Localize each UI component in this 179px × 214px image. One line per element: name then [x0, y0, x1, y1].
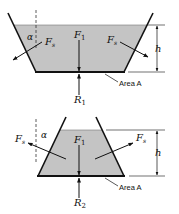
top-r1-label: R1: [73, 94, 86, 107]
top-alpha-label: α: [27, 32, 33, 42]
bottom-r2-label: R2: [73, 197, 86, 210]
bottom-area-label: Area A: [119, 183, 142, 192]
bottom-h-label: h: [155, 147, 161, 158]
bottom-fs-left-label: Fs: [14, 133, 25, 145]
hydrostatic-containers-diagram: α Fs F1 Fs h R1 Area A α Fs F1 Fs h R2 A…: [0, 0, 179, 214]
bottom-alpha-label: α: [41, 130, 47, 140]
bottom-fs-right-label: Fs: [135, 132, 146, 144]
bottom-area-leader: [105, 178, 118, 186]
top-area-label: Area A: [119, 79, 142, 88]
top-container: α Fs F1 Fs h R1 Area A: [8, 10, 165, 107]
top-h-label: h: [155, 43, 161, 54]
bottom-container: α Fs F1 Fs h R2 Area A: [14, 117, 165, 210]
top-area-leader: [105, 74, 118, 82]
